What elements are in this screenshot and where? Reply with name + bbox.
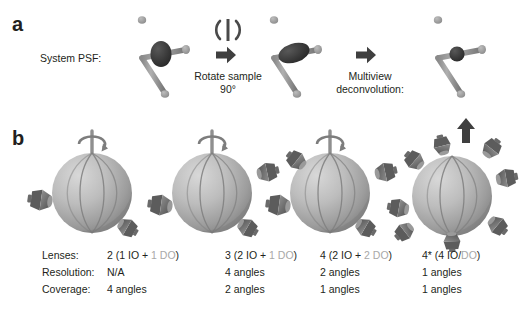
lens-icon: [494, 167, 519, 189]
lenses-value-col2: 3 (2 IO + 1 DO): [225, 250, 297, 261]
sphere-config-2: [146, 131, 281, 241]
panel-label-a: a: [12, 14, 23, 34]
coverage-value-col4: 1 angles: [422, 284, 462, 295]
sphere-config-4: [386, 133, 520, 252]
resolution-value-col3: 2 angles: [320, 267, 360, 278]
lens-icon: [282, 146, 310, 173]
lenses-dim-col3: 2 DO: [364, 249, 389, 261]
rotate-sample-line1: Rotate sample: [182, 70, 274, 83]
lenses-dim-col1: 1 DO: [151, 249, 176, 261]
lens-icon: [386, 197, 411, 219]
coverage-value-col1: 4 angles: [107, 284, 147, 295]
resolution-value-col1: N/A: [107, 267, 125, 278]
row-label-lenses: Lenses:: [42, 250, 79, 261]
arrow-right-icon-1: [216, 47, 236, 63]
lens-icon: [373, 160, 399, 183]
sphere-config-1: [26, 131, 142, 241]
lens-icon: [478, 134, 505, 162]
sphere-config-3: [264, 131, 399, 241]
coverage-value-col3: 1 angles: [320, 284, 360, 295]
lens-icon: [352, 215, 379, 241]
lenses-prefix-col4: 4* (4 IO/: [422, 249, 461, 261]
multiview-deconvolution-label: Multiview deconvolution:: [320, 70, 420, 96]
lens-icon: [391, 219, 418, 245]
lens-icon: [255, 160, 281, 183]
coverage-value-col2: 2 angles: [225, 284, 265, 295]
lenses-suffix-col2: ): [294, 249, 298, 261]
figure-root: a b System PSF: Rotate sample 90° Multiv…: [0, 0, 528, 309]
lens-icon: [234, 215, 261, 241]
resolution-value-col4: 1 angles: [422, 267, 462, 278]
lenses-prefix-col1: 2 (1 IO +: [107, 249, 151, 261]
arrow-right-icon-2: [356, 47, 376, 63]
multiview-line2: deconvolution:: [320, 83, 420, 96]
lens-icon: [264, 193, 292, 217]
lens-icon: [114, 215, 141, 241]
rotate-sample-label: Rotate sample 90°: [182, 70, 274, 96]
lenses-value-col4: 4* (4 IO/DO): [422, 250, 480, 261]
rotation-symbol-icon: [216, 19, 240, 41]
lenses-value-col1: 2 (1 IO + 1 DO): [107, 250, 179, 261]
figure-graphics: [0, 0, 528, 309]
lenses-prefix-col2: 3 (2 IO +: [225, 249, 269, 261]
psf-deconvolved: [434, 16, 486, 98]
resolution-value-col2: 4 angles: [225, 267, 265, 278]
lens-icon: [26, 188, 54, 212]
lens-icon: [484, 212, 512, 239]
arrow-up-icon: [457, 118, 475, 143]
panel-label-b: b: [12, 128, 24, 148]
psf-rotated: [270, 16, 322, 98]
row-label-resolution: Resolution:: [42, 267, 95, 278]
lens-icon: [431, 133, 453, 157]
lenses-dim-col2: 1 DO: [269, 249, 294, 261]
lenses-suffix-col1: ): [176, 249, 180, 261]
lenses-value-col3: 4 (2 IO + 2 DO): [320, 250, 392, 261]
system-psf-label: System PSF:: [40, 52, 101, 65]
row-label-coverage: Coverage:: [42, 284, 90, 295]
lens-icon: [146, 193, 174, 217]
lenses-suffix-col4: ): [477, 249, 481, 261]
rotate-sample-line2: 90°: [182, 83, 274, 96]
lens-icon: [400, 146, 428, 173]
multiview-line1: Multiview: [320, 70, 420, 83]
lenses-suffix-col3: ): [389, 249, 393, 261]
lenses-dim-col4: DO: [461, 249, 477, 261]
lenses-prefix-col3: 4 (2 IO +: [320, 249, 364, 261]
